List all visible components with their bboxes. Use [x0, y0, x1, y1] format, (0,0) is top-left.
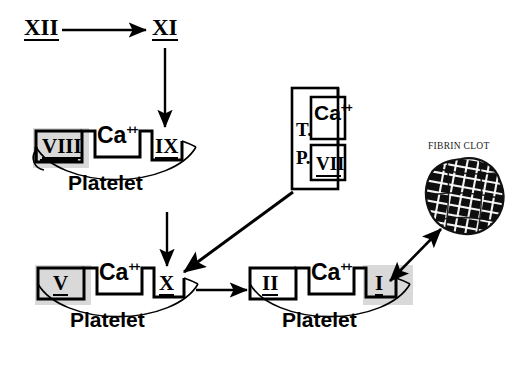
- ca-text: Ca: [311, 259, 340, 285]
- ca-superscript: ++: [126, 123, 136, 137]
- tp-label-line2: P.: [296, 148, 311, 167]
- ca-superscript: ++: [341, 101, 351, 115]
- receptor-ca-label-top: Ca++: [97, 124, 136, 147]
- receptor-ca-label-bottom-right: Ca++: [311, 261, 350, 284]
- receptor-v-label: V: [53, 273, 68, 296]
- receptor-ca-label-bottom-left: Ca++: [99, 261, 138, 284]
- receptor-x-label: X: [159, 273, 174, 296]
- ca-superscript: ++: [128, 260, 138, 274]
- tp-slot-vii-label: VII: [316, 154, 345, 173]
- arrow-i-to-fibrin-clot: [390, 229, 441, 281]
- tp-slot-ca-label: Ca++: [314, 102, 351, 123]
- factor-xi-label: XI: [152, 16, 178, 41]
- platelet-bottom-left-label: Platelet: [70, 309, 145, 330]
- ca-text: Ca: [97, 122, 126, 148]
- platelet-top-label: Platelet: [68, 172, 143, 193]
- arrow-tp-to-x: [184, 192, 293, 272]
- receptor-i-label: I: [375, 273, 383, 296]
- receptor-ii-label: II: [262, 273, 278, 296]
- ca-text: Ca: [314, 101, 341, 124]
- tp-label-line1: T.: [296, 120, 312, 139]
- receptor-viii-label: VIII: [42, 136, 82, 159]
- fibrin-clot-label: FIBRIN CLOT: [428, 142, 490, 152]
- ca-text: Ca: [99, 259, 128, 285]
- platelet-bottom-right-label: Platelet: [282, 309, 357, 330]
- receptor-ix-label: IX: [155, 136, 178, 159]
- coagulation-cascade-diagram: XII XI VIII Ca++ IX Platelet V Ca++ X Pl…: [0, 0, 516, 381]
- ca-superscript: ++: [340, 260, 350, 274]
- factor-xii-label: XII: [24, 16, 59, 41]
